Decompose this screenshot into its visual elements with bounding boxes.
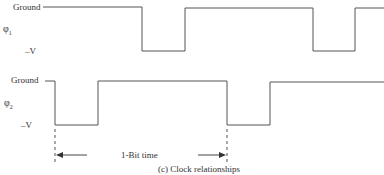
phi1-ground-label: Ground bbox=[13, 2, 41, 12]
clock-timing-diagram bbox=[0, 0, 384, 175]
phi2-waveform bbox=[45, 81, 384, 125]
phi1-label: φ1 bbox=[3, 24, 12, 38]
phi1-waveform bbox=[43, 7, 384, 51]
figure-caption: (c) Clock relationships bbox=[158, 164, 240, 174]
phi1-minus-v-label: –V bbox=[25, 46, 36, 56]
bit-time-label: 1-Bit time bbox=[121, 150, 158, 160]
left-arrowhead-icon bbox=[56, 152, 63, 158]
phi2-minus-v-label: –V bbox=[21, 120, 32, 130]
phi2-label: φ2 bbox=[4, 98, 13, 112]
phi2-ground-label: Ground bbox=[11, 75, 39, 85]
right-arrowhead-icon bbox=[219, 152, 226, 158]
